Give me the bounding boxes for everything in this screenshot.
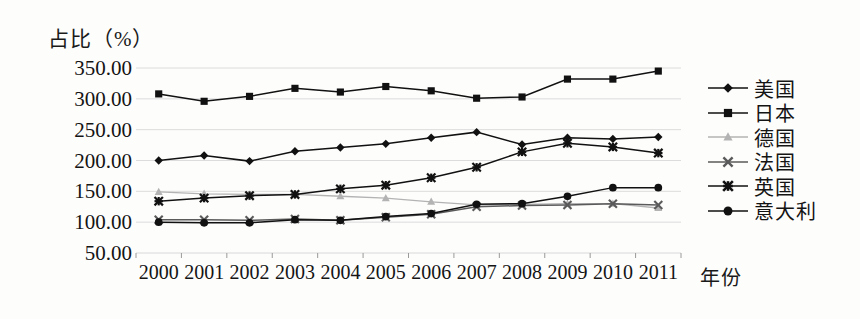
marker-asterisk xyxy=(609,143,617,151)
marker-circle xyxy=(291,216,299,224)
x-axis-tick-label: 2004 xyxy=(320,262,360,282)
y-axis-tick-label: 300.00 xyxy=(74,89,132,110)
legend-item-德国[interactable]: 德国 xyxy=(706,125,856,150)
marker-asterisk xyxy=(518,148,526,156)
marker-diamond xyxy=(336,143,344,151)
marker-diamond xyxy=(427,133,435,141)
marker-asterisk xyxy=(245,191,253,199)
x-axis-tick-label: 2001 xyxy=(184,262,224,282)
marker-square xyxy=(337,88,344,95)
legend-label: 意大利 xyxy=(754,196,817,225)
marker-square xyxy=(382,83,389,90)
x-axis-tick-labels: 2000200120022003200420052006200720082009… xyxy=(136,262,681,292)
series-line xyxy=(159,71,659,101)
marker-asterisk xyxy=(200,194,208,202)
marker-circle xyxy=(200,219,208,227)
x-axis-tick-label: 2000 xyxy=(139,262,179,282)
series-line xyxy=(159,132,659,161)
marker-circle xyxy=(246,219,254,227)
series-美国 xyxy=(155,128,663,165)
marker-square xyxy=(246,93,253,100)
marker-asterisk xyxy=(382,181,390,189)
x-axis-tick-label: 2009 xyxy=(547,262,587,282)
marker-square xyxy=(155,90,162,97)
marker-square xyxy=(518,93,525,100)
legend-marker-triangle-icon xyxy=(706,126,750,148)
marker-asterisk xyxy=(291,190,299,198)
y-axis-tick-label: 350.00 xyxy=(74,58,132,79)
marker-circle xyxy=(337,216,345,224)
y-axis-tick-label: 50.00 xyxy=(85,243,132,264)
marker-square xyxy=(655,68,662,75)
marker-circle xyxy=(518,200,526,208)
legend-marker-circle-icon xyxy=(706,200,750,222)
x-axis-tick-label: 2003 xyxy=(275,262,315,282)
marker-diamond xyxy=(200,151,208,159)
legend-item-美国[interactable]: 美国 xyxy=(706,76,856,101)
marker-circle xyxy=(427,210,435,218)
series-line xyxy=(159,204,659,221)
legend-item-法国[interactable]: 法国 xyxy=(706,150,856,175)
chart-svg xyxy=(136,68,681,253)
marker-square xyxy=(428,87,435,94)
chart-canvas: 占比（%） 350.00300.00250.00200.00150.00100.… xyxy=(0,0,860,319)
x-axis-tick-label: 2008 xyxy=(502,262,542,282)
legend-marker-cross-x-icon xyxy=(706,151,750,173)
marker-asterisk xyxy=(427,174,435,182)
marker-asterisk xyxy=(336,185,344,193)
marker-diamond xyxy=(472,128,480,136)
marker-diamond xyxy=(155,156,163,164)
marker-circle xyxy=(382,213,390,221)
marker-circle xyxy=(609,184,617,192)
legend-marker-diamond-icon xyxy=(706,77,750,99)
marker-asterisk xyxy=(472,163,480,171)
legend-item-日本[interactable]: 日本 xyxy=(706,101,856,126)
marker-circle xyxy=(564,192,572,200)
x-axis-tick-label: 2005 xyxy=(366,262,406,282)
marker-circle xyxy=(724,206,733,215)
legend-item-英国[interactable]: 英国 xyxy=(706,174,856,199)
x-axis-tick-label: 2002 xyxy=(230,262,270,282)
marker-square xyxy=(564,76,571,83)
marker-square xyxy=(201,98,208,105)
y-axis-tick-label: 200.00 xyxy=(74,151,132,172)
marker-square xyxy=(291,85,298,92)
marker-asterisk xyxy=(155,197,163,205)
marker-asterisk xyxy=(723,181,733,191)
marker-square xyxy=(609,76,616,83)
chart-legend: 美国日本德国法国英国意大利 xyxy=(706,76,856,223)
marker-diamond xyxy=(245,157,253,165)
plot-area xyxy=(136,68,681,253)
y-axis-tick-label: 100.00 xyxy=(74,212,132,233)
x-axis-tick-label: 2007 xyxy=(457,262,497,282)
marker-diamond xyxy=(382,140,390,148)
x-axis-tick-label: 2010 xyxy=(593,262,633,282)
marker-square xyxy=(724,109,732,117)
x-axis-tick-label: 2011 xyxy=(639,262,678,282)
series-layer xyxy=(136,68,681,253)
legend-item-意大利[interactable]: 意大利 xyxy=(706,199,856,224)
marker-diamond xyxy=(609,135,617,143)
y-axis-tick-labels: 350.00300.00250.00200.00150.00100.0050.0… xyxy=(36,0,132,319)
y-axis-tick-label: 250.00 xyxy=(74,120,132,141)
series-line xyxy=(159,192,659,208)
marker-diamond xyxy=(654,133,662,141)
marker-diamond xyxy=(723,83,733,93)
x-axis-title: 年份 xyxy=(700,262,742,291)
marker-circle xyxy=(155,218,163,226)
marker-circle xyxy=(654,184,662,192)
legend-marker-square-icon xyxy=(706,102,750,124)
y-axis-tick-label: 150.00 xyxy=(74,181,132,202)
x-axis-tick-label: 2006 xyxy=(411,262,451,282)
marker-asterisk xyxy=(654,149,662,157)
marker-circle xyxy=(473,200,481,208)
series-英国 xyxy=(155,139,663,205)
marker-square xyxy=(473,95,480,102)
legend-marker-asterisk-icon xyxy=(706,175,750,197)
marker-diamond xyxy=(291,147,299,155)
